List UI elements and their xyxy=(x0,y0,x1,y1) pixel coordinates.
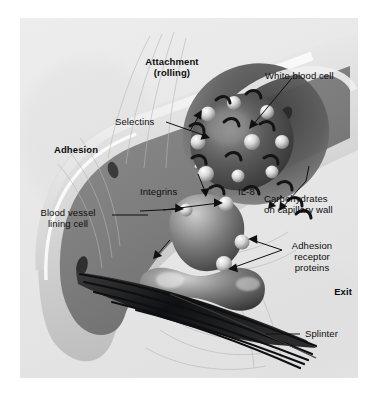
callout-integrins: Integrins xyxy=(140,186,177,197)
integrin-knob xyxy=(180,204,193,217)
stage-label-attachment: Attachment (rolling) xyxy=(130,56,214,78)
callout-il8: IL-8 xyxy=(238,186,255,197)
stage-label-exit: Exit xyxy=(276,286,352,297)
figure-root: Attachment (rolling) Adhesion Exit White… xyxy=(0,0,367,401)
callout-adhesion-receptor-proteins: Adhesion receptor proteins xyxy=(272,240,352,273)
adhesion-receptor-knob xyxy=(235,235,250,250)
callout-white-blood-cell: White blood cell xyxy=(265,70,334,81)
illustration-panel: Attachment (rolling) Adhesion Exit White… xyxy=(20,18,358,378)
callout-splinter: Splinter xyxy=(305,328,338,339)
callout-blood-vessel-lining-cell: Blood vessel lining cell xyxy=(24,207,112,229)
callout-carbohydrates: Carbohydrates on capillary wall xyxy=(264,193,333,215)
stage-label-adhesion: Adhesion xyxy=(54,144,98,155)
callout-selectins: Selectins xyxy=(115,116,154,127)
